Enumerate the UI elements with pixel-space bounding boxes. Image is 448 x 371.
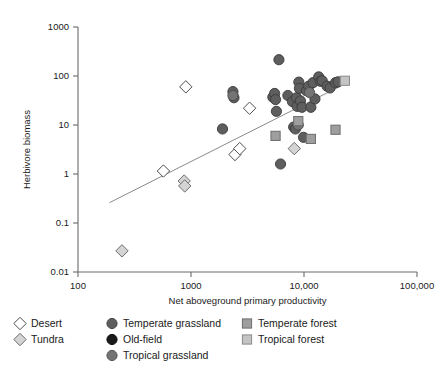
y-tick-label: 0.01 xyxy=(51,266,70,277)
data-point xyxy=(306,134,315,143)
data-point xyxy=(217,124,227,134)
legend-label: Tropical forest xyxy=(258,332,324,347)
data-point xyxy=(270,94,280,104)
data-point xyxy=(288,142,300,154)
data-point xyxy=(294,117,303,126)
data-point xyxy=(340,76,349,85)
legend-label: Temperate grassland xyxy=(123,316,221,331)
data-point xyxy=(180,81,192,93)
series-desert xyxy=(157,81,256,178)
y-axis-title: Herbivore biomass xyxy=(21,110,32,189)
legend-item-tropical-forest[interactable]: Tropical forest xyxy=(239,332,389,347)
data-point xyxy=(275,159,285,169)
data-point xyxy=(116,245,128,257)
legend-item-temperate-forest[interactable]: Temperate forest xyxy=(239,316,389,331)
data-point xyxy=(271,106,281,116)
legend-item-desert[interactable]: Desert xyxy=(12,316,104,331)
legend-item-tropical-grassland[interactable]: Tropical grassland xyxy=(104,348,239,363)
square-marker-icon xyxy=(239,332,255,347)
y-tick-label: 0.1 xyxy=(56,217,69,228)
circle-glyph xyxy=(107,318,117,328)
y-tick-label: 10 xyxy=(58,119,69,130)
diamond-marker-icon xyxy=(12,332,28,347)
legend-column-1: DesertTundra xyxy=(12,316,104,348)
y-tick-label: 1000 xyxy=(48,21,69,32)
circle-marker-icon xyxy=(104,348,120,363)
legend-label: Tundra xyxy=(31,332,64,347)
square-glyph xyxy=(242,319,251,328)
circle-marker-icon xyxy=(104,316,120,331)
circle-marker-icon xyxy=(104,332,120,347)
square-glyph xyxy=(242,335,251,344)
chart-figure: 0.010.11101001000100100010,000100,000Net… xyxy=(0,0,448,371)
legend-column-3: Temperate forestTropical forest xyxy=(239,316,389,348)
data-point xyxy=(271,131,280,140)
data-point xyxy=(331,125,340,134)
legend-label: Temperate forest xyxy=(258,316,337,331)
square-marker-icon xyxy=(239,316,255,331)
data-points-group xyxy=(116,55,350,257)
data-point xyxy=(274,55,284,65)
x-tick-label: 100,000 xyxy=(400,280,434,291)
chart-legend: DesertTundraTemperate grasslandOld-field… xyxy=(12,316,442,364)
data-point xyxy=(304,87,314,97)
legend-label: Old-field xyxy=(123,332,162,347)
x-tick-label: 100 xyxy=(70,280,86,291)
legend-item-temperate-grassland[interactable]: Temperate grassland xyxy=(104,316,239,331)
x-tick-label: 10,000 xyxy=(289,280,318,291)
y-tick-label: 1 xyxy=(64,168,69,179)
diamond-glyph xyxy=(14,317,26,329)
x-tick-label: 1000 xyxy=(180,280,201,291)
legend-item-tundra[interactable]: Tundra xyxy=(12,332,104,347)
legend-item-old-field[interactable]: Old-field xyxy=(104,332,239,347)
data-point xyxy=(243,102,255,114)
circle-glyph xyxy=(107,350,117,360)
y-tick-label: 100 xyxy=(53,70,69,81)
legend-label: Tropical grassland xyxy=(123,348,208,363)
legend-column-2: Temperate grasslandOld-fieldTropical gra… xyxy=(104,316,239,364)
diamond-glyph xyxy=(14,333,26,345)
data-point xyxy=(228,90,238,100)
x-axis-title: Net aboveground primary productivity xyxy=(169,295,327,306)
diamond-marker-icon xyxy=(12,316,28,331)
series-tundra xyxy=(116,142,301,257)
series-tropical-forest xyxy=(340,76,349,85)
legend-label: Desert xyxy=(31,316,62,331)
data-point xyxy=(157,165,169,177)
circle-glyph xyxy=(107,334,117,344)
